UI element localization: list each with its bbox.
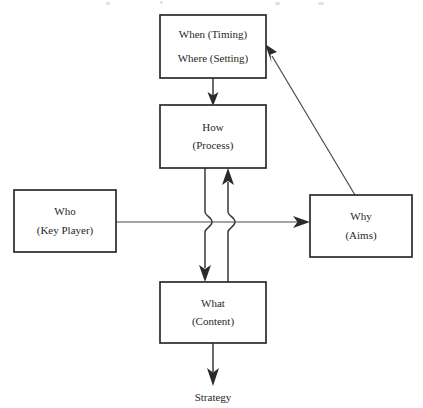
what-box-line2: (Content)	[192, 315, 234, 328]
edge-why-to-when	[265, 44, 355, 195]
how-box[interactable]: How (Process)	[160, 105, 266, 168]
diagram-canvas: When (Timing) Where (Setting) How (Proce…	[0, 0, 423, 408]
when-where-box-line2: Where (Setting)	[178, 52, 249, 65]
what-box-line1: What	[201, 297, 225, 309]
when-where-box[interactable]: When (Timing) Where (Setting)	[160, 15, 266, 78]
when-where-box-line1: When (Timing)	[179, 28, 248, 41]
who-box-line2: (Key Player)	[37, 224, 94, 237]
who-box[interactable]: Who (Key Player)	[14, 190, 116, 252]
diagram-root: When (Timing) Where (Setting) How (Proce…	[0, 0, 423, 408]
why-box[interactable]: Why (Aims)	[310, 195, 412, 257]
edge-what-to-strategy	[207, 343, 219, 386]
what-box[interactable]: What (Content)	[160, 282, 266, 343]
edge-what-to-how	[222, 168, 235, 282]
edge-who-to-why	[116, 216, 310, 228]
how-box-line2: (Process)	[193, 139, 234, 152]
strategy-label: Strategy	[195, 391, 232, 403]
how-box-line1: How	[202, 121, 223, 133]
edge-how-to-what	[199, 168, 212, 282]
why-box-line1: Why	[350, 210, 372, 222]
who-box-line1: Who	[54, 205, 76, 217]
edge-when-to-how	[208, 78, 219, 106]
why-box-line2: (Aims)	[345, 229, 377, 242]
